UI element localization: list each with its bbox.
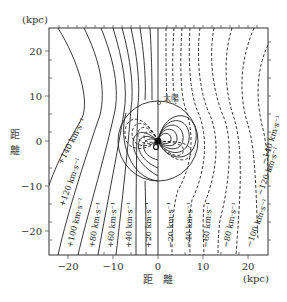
- label-plus100: +100 km·s⁻¹: [65, 197, 86, 249]
- y-tick-10: 10: [29, 91, 42, 102]
- y-tick-labels: 20 10 0 −10 −20: [21, 46, 42, 237]
- y-tick-20: 20: [29, 46, 42, 57]
- label-plus20: +20 km·s⁻¹: [144, 202, 153, 248]
- y-tick-neg20: −20: [21, 226, 42, 237]
- contour-plus10-top: [150, 28, 152, 100]
- y-axis-label-2: 離: [10, 144, 20, 156]
- chart-svg: 太陽 +140 km·s⁻¹ +120 km·s⁻¹ +100 km·s⁻¹ +…: [0, 0, 287, 302]
- label-plus40: +40 km·s⁻¹: [124, 202, 135, 248]
- x-axis-label: 距 離: [143, 273, 173, 285]
- velocity-field-chart: 太陽 +140 km·s⁻¹ +120 km·s⁻¹ +100 km·s⁻¹ +…: [0, 0, 287, 302]
- x-tick-0: 0: [155, 261, 161, 272]
- label-minus60: −60 km·s⁻¹: [201, 202, 214, 249]
- contour-plus20-top: [140, 28, 145, 100]
- sun-marker: 太陽: [157, 93, 179, 105]
- contour-minus120: [242, 28, 258, 240]
- x-unit-label: (kpc): [243, 273, 269, 284]
- x-tick-neg20: −20: [57, 261, 78, 272]
- x-tick-20: 20: [242, 261, 255, 272]
- label-minus100: −100 km·s⁻¹: [244, 198, 270, 249]
- y-tick-0: 0: [36, 136, 42, 147]
- x-tick-labels: −20 −10 0 10 20: [57, 261, 254, 272]
- label-plus140: +140 km·s⁻¹: [56, 117, 88, 166]
- x-tick-10: 10: [197, 261, 210, 272]
- y-unit-label: (kpc): [22, 14, 48, 25]
- y-axis-label-1: 距: [10, 129, 20, 140]
- label-plus60: +60 km·s⁻¹: [106, 202, 119, 249]
- contour-labels: +140 km·s⁻¹ +120 km·s⁻¹ +100 km·s⁻¹ +80 …: [56, 114, 284, 248]
- y-tick-neg10: −10: [21, 181, 42, 192]
- x-tick-neg10: −10: [102, 261, 123, 272]
- galactic-center: [155, 138, 162, 145]
- label-minus40: −40 km·s⁻¹: [184, 202, 195, 248]
- label-minus20: −20 km·s⁻¹: [166, 202, 175, 248]
- contour-minus20-top: [173, 28, 176, 104]
- sun-label: 太陽: [163, 93, 179, 103]
- contour-minus10-top: [166, 28, 167, 101]
